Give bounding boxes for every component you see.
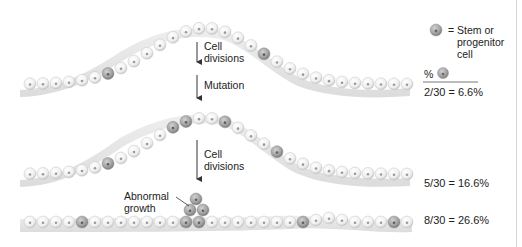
normal-cell [37,167,49,179]
normal-cell [245,130,257,142]
normal-cell [336,76,348,88]
percent-symbol: % [424,68,433,80]
arrow-label-cell-divisions-2: Cell divisions [204,148,244,172]
ratio-stage-1: 2/30 = 6.6% [424,86,483,98]
normal-cell [24,216,36,228]
normal-cell [219,216,231,228]
normal-cell [115,216,127,228]
legend-text: = Stem or progenitor cell [448,24,504,60]
stem-cell [258,48,270,60]
stem-cell [193,216,205,228]
normal-cell [323,212,335,224]
normal-cell [362,216,374,228]
stem-cell [297,216,309,228]
normal-cell [141,216,153,228]
normal-cell [193,112,205,124]
normal-cell [154,216,166,228]
normal-cell [37,77,49,89]
label-line: divisions [204,52,244,64]
normal-cell [401,78,413,90]
normal-cell [115,62,127,74]
abnormal-growth-pointer [176,197,189,206]
normal-cell [50,77,62,89]
stem-cell [102,67,114,79]
normal-cell [76,74,88,86]
legend-line: progenitor [448,36,504,48]
normal-cell [310,214,322,226]
arrow-label-cell-divisions-1: Cell divisions [204,40,244,64]
diagram-canvas [0,0,522,247]
abnormal-growth-label: Abnormal growth [124,190,169,214]
normal-cell [154,39,166,51]
normal-cell [271,216,283,228]
normal-cell [219,26,231,38]
normal-cell [180,25,192,37]
stem-cell [102,157,114,169]
ratio-stage-3: 8/30 = 26.6% [424,214,489,226]
normal-cell [141,137,153,149]
percent-stem-cell-icon [438,68,449,79]
normal-cell [297,68,309,80]
normal-cell [245,40,257,52]
normal-cell [232,122,244,134]
normal-cell [258,216,270,228]
normal-cell [323,164,335,176]
normal-cell [297,158,309,170]
arrow-label-mutation: Mutation [204,79,244,91]
stem-cell [180,115,192,127]
stem-cell [388,216,400,228]
normal-cell [284,216,296,228]
normal-cell [336,214,348,226]
normal-cell [154,129,166,141]
normal-cell [258,138,270,150]
normal-cell [336,166,348,178]
normal-cell [375,78,387,90]
normal-cell [50,216,62,228]
normal-cell [89,161,101,173]
normal-cell [76,164,88,176]
normal-cell [310,72,322,84]
normal-cell [63,166,75,178]
label-line: Cell [204,148,244,160]
normal-cell [388,78,400,90]
normal-cell [63,76,75,88]
normal-cell [167,31,179,43]
normal-cell [141,47,153,59]
normal-cell [128,216,140,228]
normal-cell [271,56,283,68]
normal-cell [102,216,114,228]
normal-cell [375,216,387,228]
stem-cell [190,193,202,205]
ratio-stage-2: 5/30 = 16.6% [424,177,489,189]
legend-stem-cell-icon [430,24,442,36]
normal-cell [128,55,140,67]
normal-cell [232,216,244,228]
normal-cell [206,216,218,228]
normal-cell [167,216,179,228]
normal-cell [128,145,140,157]
label-line: growth [124,202,169,214]
normal-cell [401,168,413,180]
normal-cell [362,168,374,180]
normal-cell [245,216,257,228]
normal-cell [388,168,400,180]
normal-cell [206,22,218,34]
label-line: Abnormal [124,190,169,202]
legend-line: = Stem or [448,24,504,36]
normal-cell [375,168,387,180]
normal-cell [349,77,361,89]
normal-cell [37,216,49,228]
stem-cell [76,216,88,228]
normal-cell [349,216,361,228]
normal-cell [115,152,127,164]
normal-cell [63,216,75,228]
normal-cell [284,152,296,164]
normal-cell [284,62,296,74]
normal-cell [24,168,36,180]
legend-line: cell [448,48,504,60]
normal-cell [89,216,101,228]
normal-cell [362,78,374,90]
stem-cell [180,216,192,228]
normal-cell [310,162,322,174]
stem-cell [271,146,283,158]
